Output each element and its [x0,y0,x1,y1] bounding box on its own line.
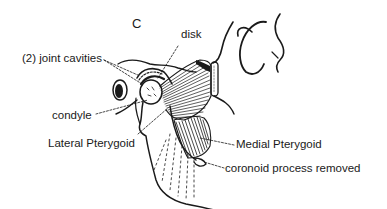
orbit-c-shape [240,22,266,74]
condyle-stipple [147,87,156,96]
label-medial-pterygoid: Medial Pterygoid [236,139,322,151]
tmj-diagram: C disk (2) joint cavities condyle Latera… [0,0,387,209]
leader-coronoid [204,162,224,168]
medial-pterygoid-muscle [176,117,209,156]
label-joint-cavities: (2) joint cavities [22,53,102,65]
nasal-notch [272,52,278,58]
zygomatic-outline [213,22,233,63]
mastoid-hook [135,98,140,124]
ramus-dashed-lines [154,134,194,200]
panel-letter: C [132,17,141,30]
styloid-process [116,100,137,114]
label-lateral-pterygoid: Lateral Pterygoid [48,138,135,150]
label-condyle: condyle [52,110,92,122]
skull-base-outline [118,60,196,72]
condyle-head [140,80,162,104]
ear-canal-inner [115,84,123,98]
leader-disk [158,46,178,78]
leader-lines [96,46,234,168]
nasal-outline [275,14,283,72]
label-disk: disk [181,29,201,41]
leader-lateral-pterygoid [138,108,168,134]
cheek-outline [214,96,234,114]
label-coronoid-process: coronoid process removed [225,163,361,175]
zygomatic-arch-strip [211,62,218,96]
